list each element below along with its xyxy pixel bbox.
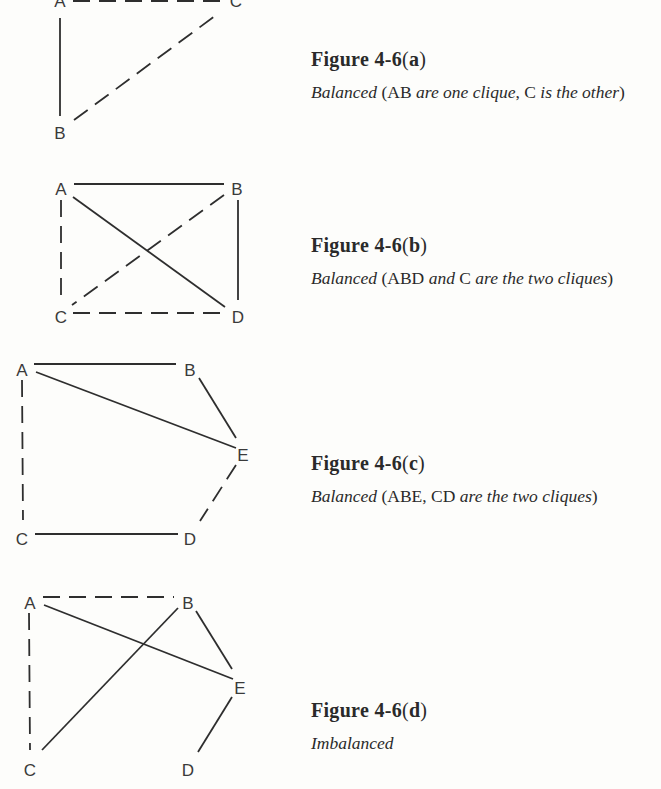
- node-C: C: [230, 0, 242, 11]
- figure-title-main: Figure 4-6: [311, 452, 402, 474]
- edge-AC-dashed: [22, 380, 23, 520]
- clique-diagrams: ACBABCDABECDABECD: [0, 0, 661, 789]
- node-B: B: [182, 594, 193, 613]
- figure-title-main: Figure 4-6: [311, 234, 402, 256]
- figure-title: Figure 4-6(d): [311, 699, 646, 722]
- description-fragment: Imbalanced: [311, 733, 394, 753]
- node-C: C: [16, 530, 28, 549]
- figure-title: Figure 4-6(c): [311, 452, 646, 475]
- description-fragment: Balanced: [311, 82, 377, 102]
- figure-c-graph: ABECD: [16, 361, 249, 549]
- figure-description: Balanced (AB are one clique, C is the ot…: [311, 81, 646, 103]
- description-fragment: are the two cliques: [460, 486, 592, 506]
- edge-AD-solid: [73, 197, 225, 307]
- description-fragment: (AB: [377, 82, 416, 102]
- figure-title-main: Figure 4-6: [311, 48, 402, 70]
- description-fragment: ): [607, 268, 613, 288]
- node-E: E: [234, 679, 245, 698]
- figure-title-letter: c: [409, 452, 418, 474]
- description-fragment: , C: [515, 82, 540, 102]
- node-D: D: [184, 530, 196, 549]
- description-fragment: Balanced: [311, 486, 377, 506]
- node-A: A: [24, 594, 36, 613]
- figure-title-close: ): [419, 48, 426, 70]
- figure-title: Figure 4-6(a): [311, 48, 646, 71]
- figure-title-letter: a: [409, 48, 419, 70]
- figure-title-letter: d: [409, 699, 420, 721]
- edge-BC-solid: [42, 608, 178, 750]
- node-D: D: [182, 761, 194, 780]
- description-fragment: is the other: [540, 82, 619, 102]
- edge-BC-dashed: [74, 13, 219, 120]
- edge-BE-solid: [199, 378, 236, 438]
- edge-AE-solid: [36, 372, 236, 448]
- edge-BE-solid: [196, 611, 232, 669]
- figure-d-caption: Figure 4-6(d)Imbalanced: [311, 699, 646, 754]
- figure-description: Balanced (ABE, CD are the two cliques): [311, 485, 646, 507]
- node-A: A: [55, 180, 67, 199]
- node-E: E: [237, 446, 248, 465]
- description-fragment: are one clique: [416, 82, 515, 102]
- node-A: A: [16, 361, 28, 380]
- figure-d-graph: ABECD: [24, 594, 246, 780]
- figure-title-open: (: [402, 699, 409, 721]
- figure-title: Figure 4-6(b): [311, 234, 646, 257]
- figure-title-open: (: [402, 48, 409, 70]
- node-B: B: [184, 361, 195, 380]
- figure-description: Imbalanced: [311, 732, 646, 754]
- figure-title-open: (: [402, 234, 409, 256]
- node-C: C: [55, 308, 67, 327]
- node-A: A: [54, 0, 66, 11]
- edge-BC-dashed: [72, 195, 224, 305]
- figure-title-close: ): [420, 234, 427, 256]
- edge-AC-dashed: [29, 613, 30, 750]
- figure-title-close: ): [420, 699, 427, 721]
- figure-a-graph: ACB: [54, 0, 242, 143]
- edge-ED-dashed: [200, 465, 236, 521]
- figure-b-caption: Figure 4-6(b)Balanced (ABD and C are the…: [311, 234, 646, 289]
- edge-ED-solid: [198, 697, 232, 752]
- description-fragment: (ABE, CD: [377, 486, 460, 506]
- figure-title-open: (: [402, 452, 409, 474]
- description-fragment: ): [619, 82, 625, 102]
- edge-AE-solid: [44, 605, 233, 679]
- description-fragment: (ABD: [377, 268, 429, 288]
- description-fragment: and: [429, 268, 455, 288]
- figure-description: Balanced (ABD and C are the two cliques): [311, 267, 646, 289]
- figure-title-close: ): [418, 452, 425, 474]
- node-D: D: [232, 308, 244, 327]
- figure-b-graph: ABCD: [55, 180, 244, 327]
- figure-a-caption: Figure 4-6(a)Balanced (AB are one clique…: [311, 48, 646, 103]
- description-fragment: Balanced: [311, 268, 377, 288]
- node-B: B: [231, 180, 242, 199]
- description-fragment: ): [592, 486, 598, 506]
- node-C: C: [24, 761, 36, 780]
- figure-title-main: Figure 4-6: [311, 699, 402, 721]
- figure-title-letter: b: [409, 234, 420, 256]
- figure-c-caption: Figure 4-6(c)Balanced (ABE, CD are the t…: [311, 452, 646, 507]
- description-fragment: are the two cliques: [475, 268, 607, 288]
- node-B: B: [54, 124, 65, 143]
- description-fragment: C: [455, 268, 475, 288]
